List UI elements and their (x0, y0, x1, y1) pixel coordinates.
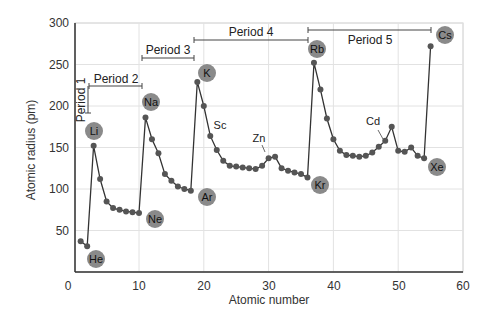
x-tick-60: 60 (456, 279, 470, 293)
data-point (110, 205, 116, 211)
data-point (311, 60, 317, 66)
data-point (337, 148, 343, 154)
data-point (123, 208, 129, 214)
svg-text:Rb: Rb (310, 43, 324, 55)
badge-cs: Cs (436, 26, 454, 44)
annotation-cd: Cd (366, 115, 380, 127)
badge-li: Li (85, 122, 103, 140)
y-tick-200: 200 (49, 99, 69, 113)
period-3-label: Period 3 (146, 43, 191, 57)
x-tick-50: 50 (392, 279, 406, 293)
x-tick-10: 10 (132, 279, 146, 293)
data-point (330, 136, 336, 142)
data-point (84, 243, 90, 249)
data-point (272, 154, 278, 160)
y-tick-300: 300 (49, 16, 69, 30)
data-point (91, 143, 97, 149)
data-point (376, 144, 382, 150)
data-point (117, 207, 123, 213)
data-point (162, 171, 168, 177)
data-point (253, 166, 259, 172)
period-4-label: Period 4 (229, 25, 274, 39)
period-1-label: Period 1 (74, 77, 88, 122)
data-point (104, 198, 110, 204)
data-point (298, 171, 304, 177)
data-point (136, 210, 142, 216)
svg-text:Kr: Kr (315, 179, 326, 191)
data-point (155, 150, 161, 156)
data-point (421, 155, 427, 161)
data-point (408, 145, 414, 151)
svg-text:Li: Li (90, 125, 99, 137)
y-tick-150: 150 (49, 141, 69, 155)
y-tick-250: 250 (49, 58, 69, 72)
data-point (240, 164, 246, 170)
data-point (369, 149, 375, 155)
period-5-label: Period 5 (348, 33, 393, 47)
data-point (220, 158, 226, 164)
data-point (142, 115, 148, 121)
data-point (214, 147, 220, 153)
svg-text:K: K (203, 67, 211, 79)
badge-kr: Kr (311, 176, 329, 194)
x-tick-30: 30 (262, 279, 276, 293)
data-point (415, 153, 421, 159)
badge-rb: Rb (308, 40, 326, 58)
badge-na: Na (142, 93, 160, 111)
y-tick-labels: 50 100 150 200 250 300 (49, 16, 69, 238)
svg-text:Ar: Ar (202, 191, 213, 203)
data-point (402, 149, 408, 155)
data-point (149, 136, 155, 142)
x-tick-20: 20 (197, 279, 211, 293)
data-point (194, 79, 200, 85)
data-point (395, 148, 401, 154)
data-point (233, 164, 239, 170)
data-point (285, 168, 291, 174)
data-point (356, 154, 362, 160)
period-2-label: Period 2 (94, 72, 139, 86)
badge-he: He (87, 250, 105, 268)
x-tick-labels: 0 10 20 30 40 50 60 (65, 279, 470, 293)
data-point (227, 163, 233, 169)
badge-ne: Ne (146, 210, 164, 228)
y-axis-label: Atomic radius (pm) (24, 100, 38, 201)
svg-text:Ne: Ne (148, 213, 162, 225)
badge-xe: Xe (428, 158, 446, 176)
data-point (201, 103, 207, 109)
data-point (207, 133, 213, 139)
data-point (389, 124, 395, 130)
data-point (304, 174, 310, 180)
data-point (78, 238, 84, 244)
x-axis-label: Atomic number (229, 293, 310, 307)
data-point (168, 178, 174, 184)
svg-text:Na: Na (144, 96, 159, 108)
annotation-sc: Sc (214, 119, 227, 131)
data-point (246, 165, 252, 171)
svg-text:Xe: Xe (430, 161, 443, 173)
data-point (363, 153, 369, 159)
data-point (266, 155, 272, 161)
data-point (130, 209, 136, 215)
x-tick-40: 40 (327, 279, 341, 293)
badge-k: K (198, 64, 216, 82)
svg-text:Cs: Cs (438, 29, 452, 41)
svg-text:He: He (89, 253, 103, 265)
y-tick-100: 100 (49, 182, 69, 196)
data-point (324, 115, 330, 121)
y-tick-50: 50 (56, 224, 70, 238)
data-point (343, 152, 349, 158)
badge-ar: Ar (198, 188, 216, 206)
data-point (259, 163, 265, 169)
data-point (428, 43, 434, 49)
data-point (317, 86, 323, 92)
data-point (97, 176, 103, 182)
annotation-zn: Zn (253, 132, 266, 144)
data-point (181, 186, 187, 192)
atomic-radius-chart: 0 10 20 30 40 50 60 50 100 150 200 250 3… (0, 0, 492, 314)
data-point (279, 165, 285, 171)
data-point (350, 153, 356, 159)
data-point (175, 184, 181, 190)
data-point (292, 169, 298, 175)
x-tick-0: 0 (65, 279, 72, 293)
data-point (188, 188, 194, 194)
